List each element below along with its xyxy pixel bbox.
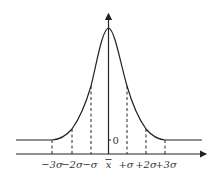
label-minus-sigma: −σ: [82, 159, 98, 170]
label-plus-3sigma: +3σ: [155, 159, 178, 170]
normal-distribution-diagram: 0 −3σ −2σ −σ x +σ +2σ +3σ: [0, 0, 218, 181]
mean-label-group: x: [106, 159, 112, 170]
label-plus-sigma: +σ: [118, 159, 134, 170]
mean-label: x: [106, 159, 112, 170]
label-minus-2sigma: −2σ: [61, 159, 84, 170]
origin-label: 0: [113, 135, 119, 146]
